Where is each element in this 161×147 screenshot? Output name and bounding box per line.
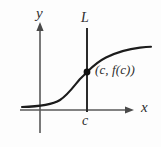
x-tick-label-c: c <box>82 114 88 128</box>
vertical-line-label: L <box>81 11 89 25</box>
x-axis-arrowhead-icon <box>125 106 134 113</box>
x-axis-label: x <box>141 100 148 115</box>
point-coordinate-label: (c, f(c)) <box>95 63 135 76</box>
function-graph-figure: y L x c (c, f(c)) <box>0 0 161 147</box>
y-axis-arrowhead-icon <box>36 22 43 31</box>
point-marker <box>84 69 91 76</box>
y-axis-label: y <box>36 6 43 21</box>
